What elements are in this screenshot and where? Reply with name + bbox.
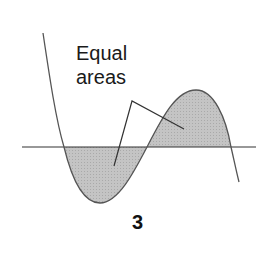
panel-label: 3 [132, 211, 143, 234]
annotation-text-line1: Equal [76, 42, 127, 65]
shaded-area-below-axis [64, 147, 147, 203]
annotation-text-line2: areas [76, 66, 126, 89]
shaded-area-above-axis [147, 90, 231, 147]
